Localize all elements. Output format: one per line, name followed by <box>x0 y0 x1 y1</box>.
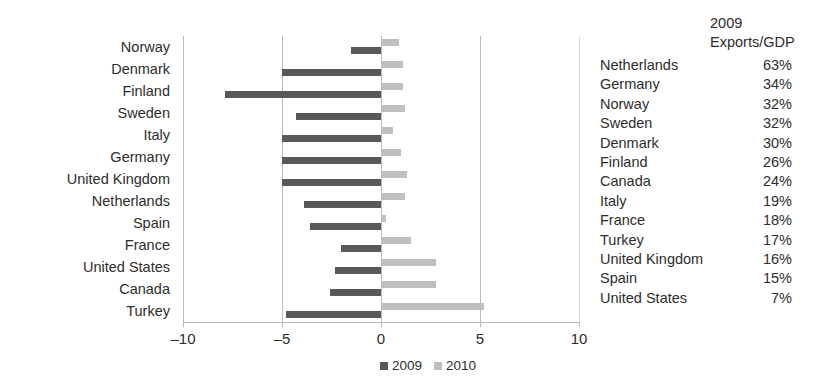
bar-group <box>183 168 579 190</box>
bar-group <box>183 102 579 124</box>
bar-group <box>183 146 579 168</box>
gridline <box>579 36 580 322</box>
legend-swatch-icon <box>380 362 388 370</box>
category-label: France <box>0 237 176 254</box>
table-cell-value: 34% <box>740 75 792 94</box>
legend-swatch-icon <box>434 362 442 370</box>
bar-group <box>183 234 579 256</box>
bar-2010-sweden <box>381 105 405 112</box>
category-label: United Kingdom <box>0 171 176 188</box>
table-cell-country: France <box>600 211 740 230</box>
table-header-metric: Exports/GDP <box>710 33 830 52</box>
table-row: France18% <box>600 211 830 230</box>
table-cell-country: United States <box>600 289 740 308</box>
bar-group <box>183 190 579 212</box>
table-cell-value: 24% <box>740 172 792 191</box>
category-label: United States <box>0 259 176 276</box>
table-row: Denmark30% <box>600 134 830 153</box>
table-cell-country: Netherlands <box>600 56 740 75</box>
category-label: Spain <box>0 215 176 232</box>
exports-gdp-table: 2009 Exports/GDP Netherlands63%Germany34… <box>600 14 830 308</box>
table-cell-country: Canada <box>600 172 740 191</box>
bar-2009-finland <box>225 91 381 98</box>
legend-label: 2009 <box>392 358 422 373</box>
bar-2009-netherlands <box>304 201 381 208</box>
table-cell-country: Germany <box>600 75 740 94</box>
x-tick-label: 10 <box>571 330 588 347</box>
table-cell-country: Finland <box>600 153 740 172</box>
table-row: Spain15% <box>600 269 830 288</box>
table-cell-country: Spain <box>600 269 740 288</box>
bar-2009-sweden <box>296 113 381 120</box>
table-cell-country: Denmark <box>600 134 740 153</box>
table-cell-value: 19% <box>740 192 792 211</box>
table-cell-value: 30% <box>740 134 792 153</box>
bar-group <box>183 58 579 80</box>
bar-2009-spain <box>310 223 381 230</box>
figure-root: NorwayDenmarkFinlandSwedenItalyGermanyUn… <box>0 0 837 390</box>
category-label: Netherlands <box>0 193 176 210</box>
bar-2009-italy <box>282 135 381 142</box>
table-cell-value: 15% <box>740 269 792 288</box>
bar-2010-canada <box>381 281 436 288</box>
table-cell-value: 32% <box>740 114 792 133</box>
bar-2010-netherlands <box>381 193 405 200</box>
bar-2010-spain <box>381 215 386 222</box>
table-cell-value: 63% <box>740 56 792 75</box>
table-header-year: 2009 <box>710 14 830 33</box>
bar-2010-germany <box>381 149 401 156</box>
x-tick-label: –5 <box>274 330 291 347</box>
table-body: Netherlands63%Germany34%Norway32%Sweden3… <box>600 56 830 308</box>
table-cell-value: 7% <box>740 289 792 308</box>
bar-2010-united-states <box>381 259 436 266</box>
bar-2010-turkey <box>381 303 484 310</box>
x-tick-mark <box>381 322 382 327</box>
table-row: United Kingdom16% <box>600 250 830 269</box>
x-tick-label: 5 <box>476 330 484 347</box>
bar-2010-italy <box>381 127 393 134</box>
legend-entry-2010[interactable]: 2010 <box>434 358 476 373</box>
x-tick-mark <box>579 322 580 327</box>
bar-2009-united-states <box>335 267 381 274</box>
legend-entry-2009[interactable]: 2009 <box>380 358 422 373</box>
chart-legend: 20092010 <box>380 358 476 373</box>
category-label: Turkey <box>0 303 176 320</box>
x-tick-label: –10 <box>170 330 195 347</box>
plot-area <box>183 36 579 322</box>
bar-group <box>183 278 579 300</box>
bar-2009-germany <box>282 157 381 164</box>
category-label: Canada <box>0 281 176 298</box>
table-cell-country: Sweden <box>600 114 740 133</box>
table-row: Finland26% <box>600 153 830 172</box>
category-label: Sweden <box>0 105 176 122</box>
x-tick-label: 0 <box>377 330 385 347</box>
x-tick-mark <box>480 322 481 327</box>
bar-group <box>183 36 579 58</box>
category-label: Norway <box>0 39 176 56</box>
x-tick-mark <box>183 322 184 327</box>
bar-group <box>183 300 579 322</box>
bar-chart: NorwayDenmarkFinlandSwedenItalyGermanyUn… <box>0 0 580 390</box>
table-row: Sweden32% <box>600 114 830 133</box>
category-label: Germany <box>0 149 176 166</box>
table-row: Netherlands63% <box>600 56 830 75</box>
legend-label: 2010 <box>446 358 476 373</box>
table-cell-value: 26% <box>740 153 792 172</box>
bar-2010-finland <box>381 83 403 90</box>
table-row: United States7% <box>600 289 830 308</box>
bar-group <box>183 124 579 146</box>
table-cell-value: 17% <box>740 231 792 250</box>
bar-2010-denmark <box>381 61 403 68</box>
bar-2010-france <box>381 237 411 244</box>
bar-2009-denmark <box>282 69 381 76</box>
category-axis-labels: NorwayDenmarkFinlandSwedenItalyGermanyUn… <box>0 36 176 322</box>
bar-2009-norway <box>351 47 381 54</box>
bar-2009-turkey <box>286 311 381 318</box>
table-cell-country: Norway <box>600 95 740 114</box>
category-label: Italy <box>0 127 176 144</box>
table-cell-value: 16% <box>740 250 792 269</box>
bar-2009-canada <box>330 289 381 296</box>
bar-2009-united-kingdom <box>282 179 381 186</box>
bar-group <box>183 212 579 234</box>
table-cell-value: 18% <box>740 211 792 230</box>
